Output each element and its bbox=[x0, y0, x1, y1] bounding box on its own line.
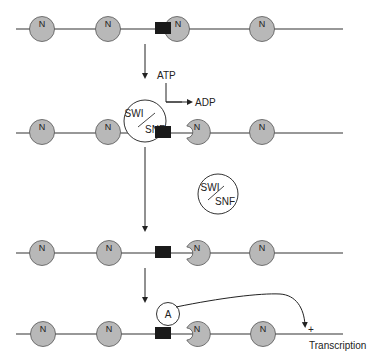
row-remodeled-chromatin: N N N N bbox=[16, 241, 343, 266]
activator: A bbox=[157, 303, 180, 326]
svg-text:N: N bbox=[259, 243, 266, 253]
svg-text:N: N bbox=[194, 122, 201, 132]
binding-site-box bbox=[155, 246, 171, 258]
svg-text:N: N bbox=[39, 19, 46, 29]
plus-sign: + bbox=[308, 324, 314, 335]
svg-text:SWI: SWI bbox=[125, 108, 144, 119]
svg-text:SNF: SNF bbox=[215, 196, 235, 207]
remodeled-nucleosome: N bbox=[187, 120, 210, 145]
svg-text:N: N bbox=[259, 122, 266, 132]
nucleosome: N bbox=[31, 322, 56, 347]
svg-text:N: N bbox=[106, 243, 113, 253]
nucleosome: N bbox=[250, 241, 275, 266]
svg-text:A: A bbox=[165, 309, 172, 320]
svg-text:N: N bbox=[39, 243, 46, 253]
svg-text:N: N bbox=[105, 19, 112, 29]
nucleosome: N bbox=[250, 120, 275, 145]
nucleosome: N bbox=[251, 322, 276, 347]
nucleosome: N bbox=[30, 241, 55, 266]
activation-arrow bbox=[176, 294, 305, 325]
nucleosome: N bbox=[96, 120, 121, 145]
nucleosome: N bbox=[30, 17, 55, 42]
row-activator-bound: N N A N N + Transcription bbox=[16, 294, 366, 351]
atp-label: ATP bbox=[157, 70, 176, 81]
svg-text:N: N bbox=[260, 324, 267, 334]
svg-text:N: N bbox=[106, 324, 113, 334]
svg-text:SWI: SWI bbox=[201, 182, 220, 193]
svg-text:N: N bbox=[259, 19, 266, 29]
nucleosome: N bbox=[96, 17, 121, 42]
swi-snf-diagram: N N N N ATP ADP N N SWI bbox=[0, 0, 384, 361]
svg-text:N: N bbox=[39, 122, 46, 132]
svg-text:N: N bbox=[105, 122, 112, 132]
svg-text:N: N bbox=[175, 19, 182, 29]
adp-label: ADP bbox=[195, 97, 216, 108]
nucleosome: N bbox=[30, 120, 55, 145]
binding-site-box bbox=[155, 126, 171, 138]
binding-site-box bbox=[155, 22, 171, 34]
svg-text:N: N bbox=[194, 243, 201, 253]
svg-text:N: N bbox=[194, 324, 201, 334]
row-initial-chromatin: N N N N bbox=[16, 17, 343, 42]
transcription-label: Transcription bbox=[309, 340, 366, 351]
row-swi-snf-bound: N N SWI SNF N N bbox=[16, 100, 343, 145]
nucleosome: N bbox=[97, 322, 122, 347]
nucleosome: N bbox=[250, 17, 275, 42]
nucleosome: N bbox=[97, 241, 122, 266]
swi-snf-complex-released: SWI SNF bbox=[198, 174, 238, 214]
atp-to-adp-path bbox=[166, 83, 182, 102]
svg-text:N: N bbox=[40, 324, 47, 334]
binding-site-box bbox=[155, 327, 171, 339]
